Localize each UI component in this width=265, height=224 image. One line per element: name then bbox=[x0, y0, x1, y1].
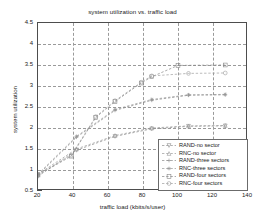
legend-item: RNC-four sectors bbox=[161, 180, 245, 188]
y-tick-label: 1 bbox=[30, 166, 33, 172]
x-tick-label: 80 bbox=[139, 192, 146, 198]
y-tick-label: 0.5 bbox=[25, 187, 33, 193]
data-point-marker-asterisk bbox=[167, 167, 171, 171]
y-tick-label: 2 bbox=[30, 124, 33, 130]
y-tick-label: 4.5 bbox=[25, 19, 33, 25]
x-axis-label: traffic load (kbits/s/user) bbox=[0, 203, 265, 210]
legend-item-label: RNC-no sector bbox=[179, 150, 216, 158]
legend-marker-triangle-up-icon bbox=[161, 150, 177, 157]
y-tick-label: 4 bbox=[30, 40, 33, 46]
legend-marker-plus-icon bbox=[161, 157, 177, 164]
data-point-marker-asterisk bbox=[150, 98, 154, 102]
legend-marker-circle-icon bbox=[161, 180, 177, 187]
legend-marker-triangle-down-icon bbox=[161, 142, 177, 149]
x-tick-label: 120 bbox=[207, 192, 217, 198]
x-tick-label: 60 bbox=[104, 192, 111, 198]
legend-marker-asterisk-icon bbox=[161, 165, 177, 172]
y-tick-label: 3.5 bbox=[25, 61, 33, 67]
legend-item-label: RNC-four sectors bbox=[179, 180, 222, 188]
legend-item-label: RAND-no sector bbox=[179, 142, 220, 150]
y-tick-mark bbox=[37, 190, 42, 191]
legend: RAND-no sectorRNC-no sectorRAND-three se… bbox=[158, 139, 248, 191]
legend-item-label: RAND-four sectors bbox=[179, 172, 226, 180]
x-tick-label: 100 bbox=[172, 192, 182, 198]
x-tick-label: 40 bbox=[69, 192, 76, 198]
legend-item: RAND-no sector bbox=[161, 142, 245, 150]
data-point-marker-asterisk bbox=[75, 135, 79, 139]
data-point-marker-asterisk bbox=[187, 93, 191, 97]
legend-item-label: RAND-three sectors bbox=[179, 157, 229, 165]
y-tick-label: 3 bbox=[30, 82, 33, 88]
figure: system utilization vs. traffic load syst… bbox=[0, 0, 265, 224]
data-point-marker-plus bbox=[167, 159, 171, 163]
chart-title: system utilization vs. traffic load bbox=[0, 8, 265, 15]
y-axis-label: system utilization bbox=[11, 60, 18, 160]
legend-item: RNC-no sector bbox=[161, 150, 245, 158]
data-point-marker-circle bbox=[223, 71, 227, 75]
y-tick-label: 1.5 bbox=[25, 145, 33, 151]
data-point-marker-asterisk bbox=[223, 93, 227, 97]
legend-item: RAND-four sectors bbox=[161, 172, 245, 180]
y-tick-label: 2.5 bbox=[25, 103, 33, 109]
data-point-marker-asterisk bbox=[113, 108, 117, 112]
x-tick-label: 140 bbox=[242, 192, 252, 198]
legend-marker-square-icon bbox=[161, 173, 177, 180]
legend-item-label: RNC-three sectors bbox=[179, 165, 225, 173]
legend-item: RNC-three sectors bbox=[161, 165, 245, 173]
x-tick-label: 20 bbox=[34, 192, 41, 198]
legend-item: RAND-three sectors bbox=[161, 157, 245, 165]
